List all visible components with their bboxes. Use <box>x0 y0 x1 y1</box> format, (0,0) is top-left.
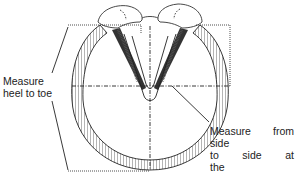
heel-to-toe-leader-lower <box>52 101 68 170</box>
side-to-side-label-line1: Measure from side <box>210 125 294 149</box>
side-to-side-label: Measure from side to side at the widest … <box>210 125 294 175</box>
heel-to-toe-label-line2: heel to toe <box>3 87 63 99</box>
heel-bulbs <box>98 4 202 28</box>
side-to-side-label-line3: widest point <box>210 173 294 175</box>
side-to-side-label-line2: to side at the <box>210 149 294 173</box>
heel-to-toe-label: Measure heel to toe <box>3 75 63 99</box>
heel-to-toe-leader-upper <box>52 27 68 73</box>
side-to-side-leader <box>172 86 209 122</box>
heel-to-toe-label-line1: Measure <box>3 75 63 87</box>
